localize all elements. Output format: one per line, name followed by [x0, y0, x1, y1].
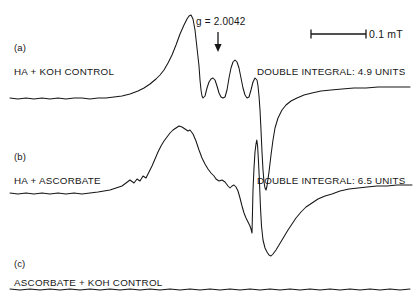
scale-bar-icon — [311, 30, 366, 39]
epr-figure: (a) HA + KOH CONTROL DOUBLE INTEGRAL: 4.… — [0, 0, 417, 299]
panel-sample-label-c: ASCORBATE + KOH CONTROL — [14, 278, 162, 288]
spectra-plot-area — [0, 0, 417, 299]
down-arrow-icon — [214, 32, 221, 52]
panel-sample-label-a: HA + KOH CONTROL — [14, 67, 114, 77]
trace-a-ha-koh-control — [10, 15, 410, 190]
panel-integral-b: DOUBLE INTEGRAL: 6.5 UNITS — [257, 176, 405, 186]
trace-c-ascorbate-koh-control — [10, 289, 410, 290]
trace-group — [10, 15, 412, 290]
trace-b-ha-ascorbate — [10, 126, 412, 256]
panel-sample-label-b: HA + ASCORBATE — [14, 176, 101, 186]
panel-letter-b: (b) — [14, 152, 26, 162]
scale-bar-label: 0.1 mT — [369, 29, 403, 40]
panel-letter-c: (c) — [14, 259, 25, 269]
panel-integral-a: DOUBLE INTEGRAL: 4.9 UNITS — [257, 67, 405, 77]
panel-letter-a: (a) — [14, 43, 26, 53]
g-value-annotation: g = 2.0042 — [196, 17, 246, 27]
